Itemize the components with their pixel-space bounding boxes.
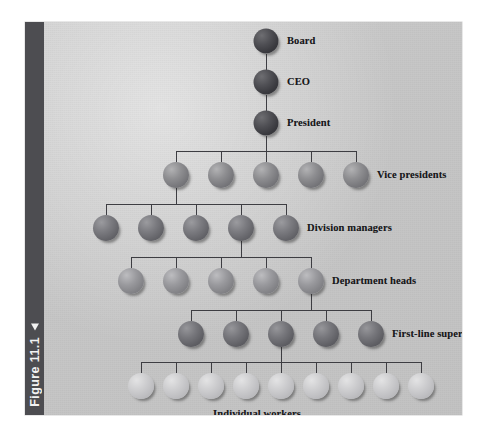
node-individual-workers-1 [128, 373, 154, 399]
sphere-glyph [198, 373, 224, 399]
sphere-glyph [268, 373, 294, 399]
node-department-heads-5 [298, 268, 324, 294]
node-first-line-supervisors-5 [358, 321, 384, 347]
node-individual-workers-5 [268, 373, 294, 399]
sphere-glyph [373, 373, 399, 399]
sphere-glyph [228, 215, 254, 241]
node-division-managers-4 [228, 215, 254, 241]
sphere-glyph [163, 373, 189, 399]
sphere-glyph [254, 70, 279, 95]
figure-frame: Figure 11.1 BoardCEOPresidentVice presid… [25, 22, 462, 415]
sphere-glyph [273, 215, 299, 241]
node-vice-presidents-4 [298, 162, 324, 188]
sphere-glyph [128, 373, 154, 399]
sphere-glyph [298, 268, 324, 294]
node-division-managers-3 [183, 215, 209, 241]
sphere-glyph [208, 162, 234, 188]
row-label-individual-workers: Individual workers [213, 408, 301, 415]
node-individual-workers-7 [338, 373, 364, 399]
node-individual-workers-3 [198, 373, 224, 399]
node-vice-presidents-5 [343, 162, 369, 188]
node-department-heads-4 [253, 268, 279, 294]
node-department-heads-3 [208, 268, 234, 294]
triangle-marker-icon [31, 324, 39, 331]
figure-caption-label: Figure 11.1 [25, 337, 44, 407]
node-individual-workers-6 [303, 373, 329, 399]
sphere-glyph [254, 111, 279, 136]
row-label-department-heads: Department heads [332, 275, 416, 286]
node-individual-workers-4 [233, 373, 259, 399]
node-division-managers-5 [273, 215, 299, 241]
row-label-ceo: CEO [287, 76, 310, 87]
sphere-glyph [233, 373, 259, 399]
sphere-glyph [253, 268, 279, 294]
node-vice-presidents-3 [253, 162, 279, 188]
row-label-first-line-supervisors: First-line supervisors [392, 328, 462, 339]
sphere-glyph [118, 268, 144, 294]
node-division-managers-1 [93, 215, 119, 241]
sphere-glyph [178, 321, 204, 347]
node-vice-presidents-1 [163, 162, 189, 188]
org-chart-panel: BoardCEOPresidentVice presidentsDivision… [44, 22, 462, 415]
node-first-line-supervisors-4 [313, 321, 339, 347]
sphere-glyph [223, 321, 249, 347]
node-first-line-supervisors-2 [223, 321, 249, 347]
sphere-glyph [93, 215, 119, 241]
figure-caption-group: Figure 11.1 [25, 323, 44, 407]
sphere-glyph [138, 215, 164, 241]
sphere-glyph [163, 162, 189, 188]
sphere-glyph [338, 373, 364, 399]
sphere-glyph [208, 268, 234, 294]
sphere-glyph [298, 162, 324, 188]
node-president-1 [254, 111, 279, 136]
node-individual-workers-9 [408, 373, 434, 399]
node-ceo-1 [254, 70, 279, 95]
node-vice-presidents-2 [208, 162, 234, 188]
sphere-glyph [343, 162, 369, 188]
node-board-1 [254, 29, 279, 54]
sphere-glyph [358, 321, 384, 347]
node-individual-workers-2 [163, 373, 189, 399]
sphere-glyph [253, 162, 279, 188]
sphere-glyph [303, 373, 329, 399]
row-label-vice-presidents: Vice presidents [377, 169, 446, 180]
sphere-glyph [254, 29, 279, 54]
node-individual-workers-8 [373, 373, 399, 399]
sphere-glyph [408, 373, 434, 399]
sphere-glyph [183, 215, 209, 241]
node-first-line-supervisors-1 [178, 321, 204, 347]
sphere-glyph [268, 321, 294, 347]
sphere-glyph [163, 268, 189, 294]
node-first-line-supervisors-3 [268, 321, 294, 347]
node-department-heads-2 [163, 268, 189, 294]
row-label-president: President [287, 117, 330, 128]
sphere-glyph [313, 321, 339, 347]
figure-sidebar: Figure 11.1 [25, 22, 44, 415]
row-label-division-managers: Division managers [307, 222, 392, 233]
row-label-board: Board [287, 35, 316, 46]
node-department-heads-1 [118, 268, 144, 294]
node-division-managers-2 [138, 215, 164, 241]
